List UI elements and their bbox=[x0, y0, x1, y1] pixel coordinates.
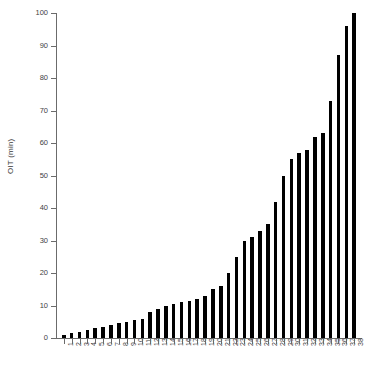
bar bbox=[180, 302, 184, 338]
bar bbox=[321, 133, 325, 338]
bar bbox=[125, 322, 129, 338]
bar bbox=[274, 202, 278, 339]
bar bbox=[141, 319, 145, 339]
bar bbox=[164, 306, 168, 339]
bar bbox=[117, 323, 121, 338]
bar bbox=[282, 176, 286, 339]
bar bbox=[93, 328, 97, 338]
bar bbox=[195, 299, 199, 338]
bars-layer bbox=[0, 0, 366, 376]
bar bbox=[172, 304, 176, 338]
bar bbox=[188, 301, 192, 338]
bar bbox=[203, 296, 207, 338]
bar bbox=[290, 159, 294, 338]
bar bbox=[266, 224, 270, 338]
bar bbox=[250, 237, 254, 338]
bar bbox=[313, 137, 317, 339]
bar bbox=[337, 55, 341, 338]
bar bbox=[235, 257, 239, 338]
bar bbox=[297, 153, 301, 338]
bar bbox=[305, 150, 309, 339]
bar bbox=[70, 333, 74, 338]
bar bbox=[78, 332, 82, 339]
bar bbox=[133, 320, 137, 338]
bar bbox=[243, 241, 247, 339]
bar bbox=[219, 286, 223, 338]
bar bbox=[211, 289, 215, 338]
bar bbox=[329, 101, 333, 338]
bar bbox=[62, 335, 66, 338]
bar bbox=[101, 327, 105, 338]
bar bbox=[86, 330, 90, 338]
bar bbox=[345, 26, 349, 338]
oit-bar-chart: OIT (min) 0102030405060708090100 1234567… bbox=[0, 0, 366, 376]
bar bbox=[148, 312, 152, 338]
bar bbox=[109, 325, 113, 338]
bar bbox=[156, 309, 160, 338]
bar bbox=[258, 231, 262, 338]
bar bbox=[227, 273, 231, 338]
bar bbox=[352, 13, 356, 338]
